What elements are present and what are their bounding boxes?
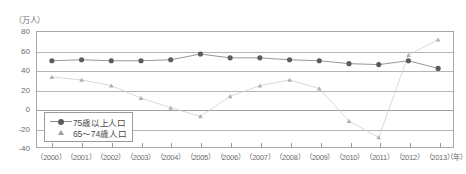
x-axis-tick [231, 143, 232, 147]
data-point [287, 57, 292, 62]
data-point [376, 135, 381, 139]
y-axis-tick-label: 40 [21, 66, 30, 75]
data-point [317, 58, 322, 63]
chart-legend: 75歳以上人口65～74歳人口 [44, 112, 133, 142]
data-point [79, 57, 84, 62]
data-point [138, 58, 143, 63]
x-axis-tick [351, 143, 352, 147]
legend-circle-icon [49, 116, 73, 127]
data-point [376, 62, 381, 67]
x-axis-tick [321, 143, 322, 147]
data-series [49, 51, 440, 70]
y-axis-tick-label: 20 [21, 85, 30, 94]
y-axis-tick-label: -20 [18, 124, 30, 133]
x-axis-tick [112, 143, 113, 147]
data-point [139, 96, 144, 100]
x-axis-tick-label: （2010） [335, 151, 364, 162]
x-axis-tick [380, 143, 381, 147]
y-axis-tick-label: 60 [21, 46, 30, 55]
data-point [49, 58, 54, 63]
legend-triangle-icon [49, 127, 73, 138]
x-axis-tick-label: （2002） [96, 151, 125, 162]
data-point [436, 37, 441, 41]
x-axis-tick-label: （2008） [275, 151, 304, 162]
x-axis-tick [440, 143, 441, 147]
legend-item[interactable]: 75歳以上人口 [49, 116, 126, 127]
x-axis-tick [261, 143, 262, 147]
x-axis-tick-label: （2011） [365, 151, 393, 162]
x-axis-tick-label: （2000） [36, 151, 65, 162]
x-axis-unit-label: （年） [446, 151, 466, 162]
x-axis-tick-label: （2004） [156, 151, 185, 162]
y-axis-tick-label: 80 [21, 27, 30, 36]
x-axis-tick [142, 143, 143, 147]
data-point [109, 58, 114, 63]
data-point [406, 53, 411, 57]
data-point [287, 78, 292, 82]
x-axis-tick-label: （2003） [126, 151, 155, 162]
y-axis-tick-labels: 806040200-20-40 [0, 31, 33, 148]
x-axis-tick [201, 143, 202, 147]
y-axis-unit-label: （万人） [14, 14, 45, 25]
x-axis-tick-label: （2009） [305, 151, 334, 162]
x-axis-tick [171, 143, 172, 147]
x-axis-tick [410, 143, 411, 147]
x-axis-tick [82, 143, 83, 147]
data-point [168, 57, 173, 62]
x-axis-tick-label: （2006） [216, 151, 245, 162]
x-axis-tick [52, 143, 53, 147]
legend-item-label: 65～74歳人口 [73, 127, 126, 139]
data-point [406, 58, 411, 63]
x-axis-tick-label: （2007） [245, 151, 274, 162]
x-axis-tick [291, 143, 292, 147]
line-chart: （万人） 806040200-20-40 （2000）（2001）（2002）（… [0, 0, 466, 174]
data-point [257, 55, 262, 60]
x-axis-tick-label: （2001） [66, 151, 95, 162]
data-point [198, 51, 203, 56]
legend-item[interactable]: 65～74歳人口 [49, 127, 126, 138]
data-point [228, 55, 233, 60]
data-point [436, 66, 441, 71]
y-axis-tick-label: 0 [26, 105, 30, 114]
x-axis-tick-labels: （2000）（2001）（2002）（2003）（2004）（2005）（200… [36, 151, 454, 167]
y-axis-tick-label: -40 [18, 144, 30, 153]
data-point [346, 61, 351, 66]
x-axis-tick-label: （2012） [395, 151, 424, 162]
x-axis-tick-label: （2005） [186, 151, 215, 162]
